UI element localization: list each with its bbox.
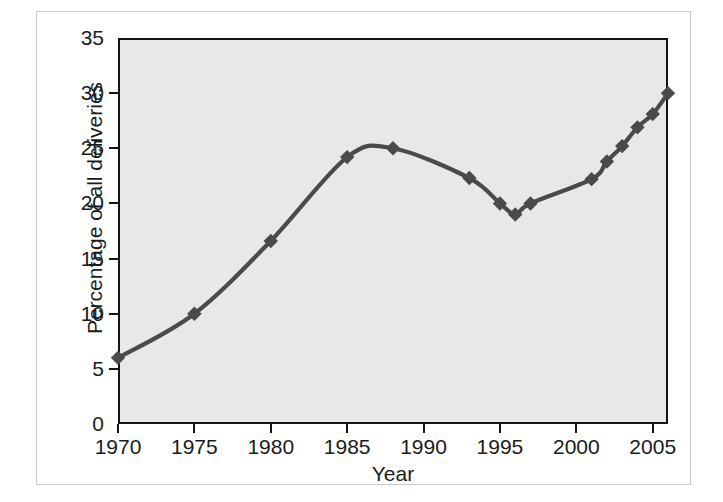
x-axis-title: Year xyxy=(118,462,668,486)
plot-area xyxy=(118,38,668,424)
plot-wrapper: 05101520253035 1970197519801985199019952… xyxy=(0,0,723,502)
x-tick-label: 2005 xyxy=(613,436,693,457)
x-tick-mark xyxy=(346,424,348,433)
x-tick-label: 1985 xyxy=(307,436,387,457)
x-tick-mark xyxy=(652,424,654,433)
y-tick-mark xyxy=(109,368,118,370)
y-tick-label: 0 xyxy=(70,413,104,434)
x-tick-mark xyxy=(117,424,119,433)
y-axis-title: Percentage of all deliveries xyxy=(83,18,107,398)
x-tick-label: 2000 xyxy=(536,436,616,457)
x-tick-mark xyxy=(499,424,501,433)
chart-figure: 05101520253035 1970197519801985199019952… xyxy=(0,0,723,502)
y-tick-mark xyxy=(109,258,118,260)
x-tick-mark xyxy=(423,424,425,433)
x-tick-mark xyxy=(270,424,272,433)
x-tick-label: 1990 xyxy=(384,436,464,457)
x-tick-label: 1975 xyxy=(154,436,234,457)
y-tick-mark xyxy=(109,92,118,94)
y-tick-mark xyxy=(109,147,118,149)
x-tick-label: 1970 xyxy=(78,436,158,457)
y-tick-mark xyxy=(109,313,118,315)
x-tick-mark xyxy=(193,424,195,433)
x-tick-label: 1980 xyxy=(231,436,311,457)
x-tick-label: 1995 xyxy=(460,436,540,457)
x-tick-mark xyxy=(575,424,577,433)
y-tick-mark xyxy=(109,202,118,204)
